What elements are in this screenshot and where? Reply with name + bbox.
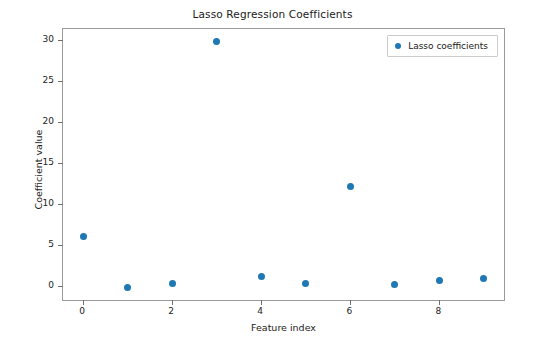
- x-axis-tick: [83, 300, 84, 305]
- y-axis-tick: [58, 81, 63, 82]
- data-point: [124, 284, 131, 291]
- data-point: [436, 277, 443, 284]
- plot-area: Lasso coefficients: [62, 28, 505, 301]
- scatter-series-lasso-coefficients: [63, 29, 504, 300]
- chart-legend: Lasso coefficients: [387, 35, 498, 57]
- x-axis-tick: [439, 300, 440, 305]
- y-axis-tick: [58, 286, 63, 287]
- x-axis-tick-label: 6: [334, 306, 364, 316]
- x-axis-tick-label: 8: [423, 306, 453, 316]
- y-axis-tick: [58, 122, 63, 123]
- legend-label: Lasso coefficients: [408, 41, 488, 51]
- y-axis-tick: [58, 245, 63, 246]
- chart-figure: Lasso Regression Coefficients Lasso coef…: [0, 0, 545, 357]
- data-point: [391, 281, 398, 288]
- y-axis-tick: [58, 163, 63, 164]
- data-point: [213, 38, 220, 45]
- x-axis-tick: [261, 300, 262, 305]
- data-point: [169, 280, 176, 287]
- x-axis-tick: [350, 300, 351, 305]
- y-axis-title: Coefficient value: [33, 40, 44, 300]
- x-axis-tick-label: 2: [156, 306, 186, 316]
- x-axis-tick-label: 0: [67, 306, 97, 316]
- data-point: [347, 183, 354, 190]
- chart-title: Lasso Regression Coefficients: [0, 8, 545, 20]
- legend-marker-icon: [395, 43, 401, 49]
- x-axis-tick: [172, 300, 173, 305]
- data-point: [480, 275, 487, 282]
- y-axis-tick: [58, 204, 63, 205]
- data-point: [258, 273, 265, 280]
- y-axis-tick: [58, 40, 63, 41]
- data-point: [302, 280, 309, 287]
- x-axis-tick-label: 4: [245, 306, 275, 316]
- x-axis-title: Feature index: [62, 322, 505, 333]
- data-point: [80, 233, 87, 240]
